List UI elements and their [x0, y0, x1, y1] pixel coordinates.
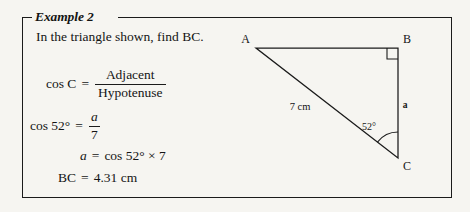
example-box-border-top-right: [118, 17, 452, 18]
example-prompt: In the triangle shown, find BC.: [36, 28, 204, 45]
example-box-border-left: [22, 17, 23, 198]
fraction-numerator-a: a: [89, 110, 100, 125]
cos-c-lhs: cos C: [46, 76, 76, 92]
solve-for-a-rhs: cos 52° × 7: [104, 148, 165, 164]
a-over-7-fraction: a 7: [89, 110, 100, 142]
example-box-border-top-left: [22, 17, 32, 18]
result-rhs: 4.31 cm: [94, 170, 138, 186]
equation-cos-52: cos 52° = a 7: [30, 110, 101, 142]
adjacent-over-hypotenuse-fraction: Adjacent Hypotenuse: [95, 68, 166, 100]
fraction-denominator-7: 7: [89, 128, 100, 143]
equation-cos-c-definition: cos C = Adjacent Hypotenuse: [46, 68, 167, 100]
example-title: Example 2: [33, 8, 96, 26]
cos-52-operator: =: [75, 118, 83, 134]
equation-result: BC = 4.31 cm: [58, 170, 137, 186]
result-operator: =: [81, 170, 89, 186]
fraction-denominator-hypotenuse: Hypotenuse: [95, 86, 166, 101]
worksheet-page: Example 2 In the triangle shown, find BC…: [0, 0, 470, 212]
example-box-border-bottom: [22, 197, 452, 198]
solve-for-a-operator: =: [92, 148, 100, 164]
cos-52-lhs: cos 52°: [30, 118, 70, 134]
example-box-border-right: [451, 17, 452, 198]
fraction-numerator-adjacent: Adjacent: [103, 68, 158, 83]
solve-for-a-lhs: a: [80, 148, 87, 164]
cos-c-operator: =: [81, 76, 89, 92]
result-lhs: BC: [58, 170, 76, 186]
equation-solve-for-a: a = cos 52° × 7: [80, 148, 166, 164]
